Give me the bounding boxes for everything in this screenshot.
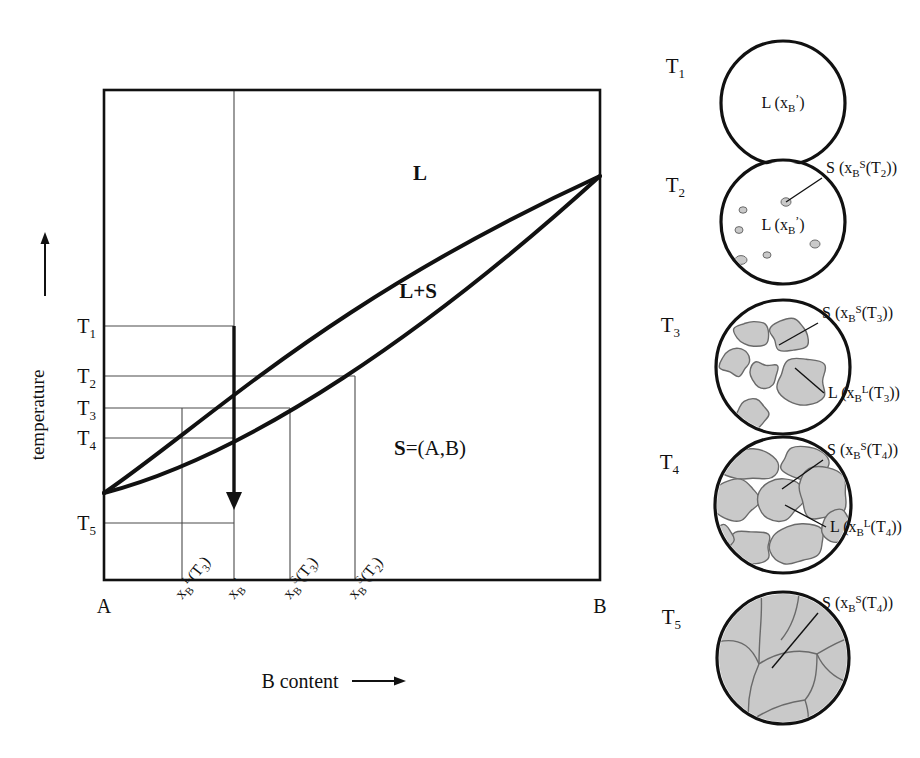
region-label-liquid: L <box>413 161 427 185</box>
solid-nucleus <box>739 207 747 213</box>
phase-diagram-figure: temperatureT1T2T3T4T5LL+SS=(A,B)ABxBL(T3… <box>0 0 920 758</box>
solid-nucleus <box>763 252 771 258</box>
axis-endpoint-A: A <box>97 595 112 617</box>
y-axis-label: temperature <box>27 370 48 461</box>
figure-root: temperatureT1T2T3T4T5LL+SS=(A,B)ABxBL(T3… <box>0 0 920 758</box>
axis-endpoint-B: B <box>593 595 606 617</box>
region-label-liquid-plus-solid: L+S <box>399 279 437 303</box>
solid-nucleus <box>810 240 820 248</box>
solid-nucleus <box>735 227 743 234</box>
region-label-solid-solution: S=(A,B) <box>394 436 466 460</box>
solid-grain <box>777 358 826 405</box>
x-axis-label: B content <box>261 670 339 692</box>
